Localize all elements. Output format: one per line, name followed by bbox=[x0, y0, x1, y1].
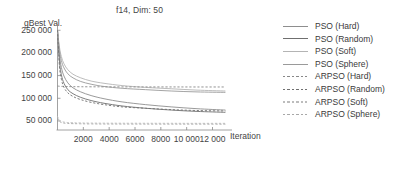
legend-swatch-line bbox=[283, 76, 308, 77]
legend-item[interactable]: ARPSO (Hard) bbox=[283, 70, 394, 83]
series-line-pso-sphere bbox=[58, 30, 226, 92]
legend-label: PSO (Random) bbox=[315, 35, 373, 44]
legend-item[interactable]: ARPSO (Soft) bbox=[283, 96, 394, 109]
legend-swatch-line bbox=[283, 101, 308, 102]
legend-label: PSO (Sphere) bbox=[315, 60, 368, 69]
legend-item[interactable]: PSO (Hard) bbox=[283, 20, 394, 33]
legend-swatch-line bbox=[283, 64, 308, 65]
legend-swatch-line bbox=[283, 51, 308, 52]
legend-label: PSO (Soft) bbox=[315, 47, 356, 56]
series-line-arpso-hard bbox=[58, 86, 226, 87]
legend-item[interactable]: ARPSO (Random) bbox=[283, 83, 394, 96]
legend-label: ARPSO (Hard) bbox=[315, 72, 371, 81]
legend-item[interactable]: PSO (Soft) bbox=[283, 45, 394, 58]
legend-swatch-line bbox=[283, 114, 308, 115]
chart-legend: PSO (Hard)PSO (Random)PSO (Soft)PSO (Sph… bbox=[283, 20, 394, 121]
legend-swatch-line bbox=[283, 26, 308, 27]
series-line-arpso-random bbox=[58, 30, 226, 111]
legend-item[interactable]: PSO (Sphere) bbox=[283, 58, 394, 71]
legend-swatch-line bbox=[283, 38, 308, 39]
legend-label: ARPSO (Random) bbox=[315, 85, 385, 94]
legend-swatch-line bbox=[283, 89, 308, 90]
legend-label: ARPSO (Soft) bbox=[315, 98, 368, 107]
legend-label: ARPSO (Sphere) bbox=[315, 110, 380, 119]
legend-label: PSO (Hard) bbox=[315, 22, 359, 31]
chart-root: f14, Dim: 50 gBest Val. Iteration 250 00… bbox=[0, 0, 394, 169]
legend-item[interactable]: PSO (Random) bbox=[283, 33, 394, 46]
legend-item[interactable]: ARPSO (Sphere) bbox=[283, 108, 394, 121]
series-line-arpso-soft bbox=[58, 116, 226, 123]
